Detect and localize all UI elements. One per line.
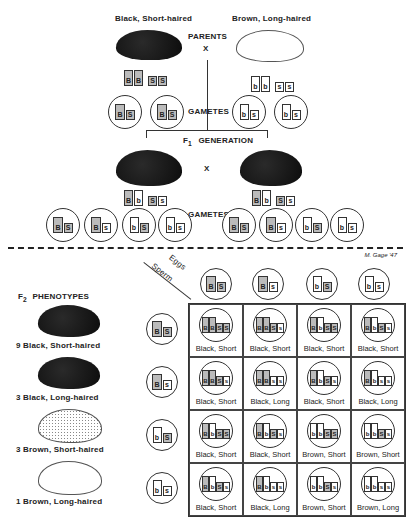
offspring-phenotype: Black, Short (196, 397, 236, 406)
allele-b: b (317, 370, 324, 386)
allele-B: B (263, 370, 270, 386)
f2-guinea-pig (38, 461, 102, 495)
allele-b: b (153, 480, 162, 496)
gamete-genotype: Bs (152, 374, 171, 390)
parent-right-gamete: bs (274, 95, 308, 129)
divider-line (207, 60, 208, 130)
f1-text: GENERATION (198, 136, 253, 145)
allele-b: b (310, 476, 317, 492)
f2-guinea-pig (38, 305, 100, 337)
f2-guinea-pig (38, 409, 102, 443)
offspring-genotype-circle: bbSs (361, 414, 395, 448)
allele-b: b (364, 423, 371, 439)
allele-S: S (240, 223, 249, 233)
allele-S: S (216, 323, 223, 333)
allele-s: s (277, 323, 284, 333)
allele-B: B (152, 321, 161, 337)
allele-S: S (331, 323, 338, 333)
allele-s: s (163, 486, 172, 496)
allele-b: b (261, 76, 270, 92)
f2-phenotype-label: 9 Black, Short-haired (16, 341, 100, 350)
f1-left-guinea-pig (116, 150, 182, 186)
offspring-genotype-circle: Bbss (361, 361, 395, 395)
eggs-label: Eggs (167, 253, 188, 272)
punnett-cell: BBSsBlack, Short (189, 357, 243, 410)
parent-right-label: Brown, Long-haired (232, 14, 311, 23)
parent-gametes-label: GAMETES (188, 107, 229, 116)
f2-text: PHENOTYPES (32, 292, 89, 301)
offspring-genotype-circle: BbSS (307, 308, 341, 342)
offspring-phenotype: Brown, Short (302, 503, 345, 512)
offspring-genotype-circle: BbSs (253, 414, 287, 448)
allele-S: S (324, 482, 331, 492)
allele-b: b (134, 190, 143, 206)
f1-sub: 1 (188, 140, 192, 147)
allele-b: b (317, 476, 324, 492)
f1-cross: X (204, 164, 210, 173)
offspring-phenotype: Black, Long (358, 397, 397, 406)
f1-bracket-left (146, 130, 147, 138)
allele-S: S (276, 196, 285, 206)
allele-b: b (209, 423, 216, 439)
f2-phenotype-label: 3 Brown, Short-haired (16, 445, 104, 454)
f1-right-gamete: bS (295, 208, 329, 242)
allele-b: b (365, 276, 374, 292)
allele-B: B (134, 70, 143, 86)
allele-S: S (216, 482, 223, 492)
f2-guinea-pig (38, 357, 100, 389)
gamete-genotype: bs (282, 104, 301, 120)
offspring-phenotype: Black, Short (304, 397, 344, 406)
f2-title: F2 PHENOTYPES (18, 292, 89, 303)
gamete-genotype: BS (206, 276, 225, 292)
parent-right-genotype: bbss (251, 76, 294, 92)
f1-label: F1 GENERATION (183, 136, 253, 147)
f1-right-gamete: bs (330, 208, 364, 242)
allele-s: s (250, 110, 259, 120)
allele-B: B (202, 317, 209, 333)
allele-S: S (270, 323, 277, 333)
allele-S: S (217, 282, 226, 292)
offspring-genotype-circle: BBSS (199, 308, 233, 342)
allele-b: b (310, 423, 317, 439)
allele-b: b (240, 104, 249, 120)
allele-b: b (263, 423, 270, 439)
gamete-genotype: Bs (266, 217, 285, 233)
punnett-cell: BBSsBlack, Short (243, 304, 297, 357)
allele-S: S (216, 429, 223, 439)
f1-left-genotype: BbSs (124, 190, 167, 206)
f1-bracket (146, 130, 268, 131)
allele-S: S (126, 110, 135, 120)
artist-signature: M. Gage '47 (365, 252, 398, 258)
allele-s: s (158, 196, 167, 206)
offspring-phenotype: Black, Long (250, 397, 289, 406)
allele-b: b (251, 76, 260, 92)
f1-right-guinea-pig (240, 150, 302, 186)
punnett-cell: bbSSBrown, Short (297, 410, 351, 463)
gamete-genotype: BS (53, 217, 72, 233)
allele-B: B (310, 317, 317, 333)
allele-b: b (209, 476, 216, 492)
punnett-cell: BbSSBlack, Short (297, 304, 351, 357)
egg-gamete: bs (358, 268, 390, 300)
parents-label: PARENTS (188, 32, 227, 41)
allele-s: s (378, 376, 385, 386)
allele-S: S (378, 429, 385, 439)
allele-s: s (385, 376, 392, 386)
offspring-phenotype: Black, Short (196, 344, 236, 353)
allele-S: S (331, 429, 338, 439)
allele-s: s (277, 376, 284, 386)
punnett-cell: BbSSBlack, Short (189, 410, 243, 463)
allele-S: S (216, 376, 223, 386)
offspring-genotype-circle: BBSs (253, 308, 287, 342)
allele-B: B (202, 476, 209, 492)
allele-B: B (124, 70, 133, 86)
parent-left-label: Black, Short-haired (115, 14, 192, 23)
allele-s: s (176, 223, 185, 233)
brown-long-guinea-pig (236, 30, 304, 62)
offspring-phenotype: Brown, Short (302, 450, 345, 459)
gamete-genotype: bs (365, 276, 384, 292)
punnett-cell: BBSSBlack, Short (189, 304, 243, 357)
allele-b: b (313, 276, 322, 292)
allele-b: b (282, 104, 291, 120)
allele-B: B (256, 317, 263, 333)
